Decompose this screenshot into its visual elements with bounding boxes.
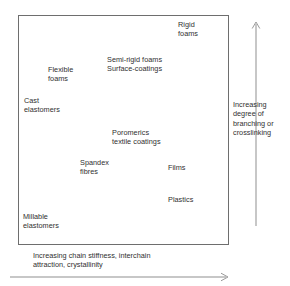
horizontal-axis-arrow	[8, 270, 232, 284]
region-label-spandex-fibres: Spandex fibres	[80, 158, 109, 177]
polymer-property-diagram: Rigid foams Semi-rigid foams Surface-coa…	[0, 0, 290, 286]
region-label-plastics: Plastics	[168, 195, 193, 204]
region-label-cast-elastomers: Cast elastomers	[24, 96, 60, 115]
region-label-flexible-foams: Flexible foams	[48, 65, 73, 84]
horizontal-axis-caption: Increasing chain stiffness, interchain a…	[33, 251, 233, 270]
vertical-axis-caption: Increasing degree of branching or crossl…	[233, 100, 290, 138]
region-label-poromerics: Poromerics textile coatings	[112, 128, 161, 147]
region-label-rigid-foams: Rigid foams	[178, 20, 198, 39]
region-label-semi-rigid-foams: Semi-rigid foams Surface-coatings	[107, 55, 162, 74]
region-label-films: Films	[168, 163, 186, 172]
region-label-millable-elastomers: Millable elastomers	[23, 212, 59, 231]
